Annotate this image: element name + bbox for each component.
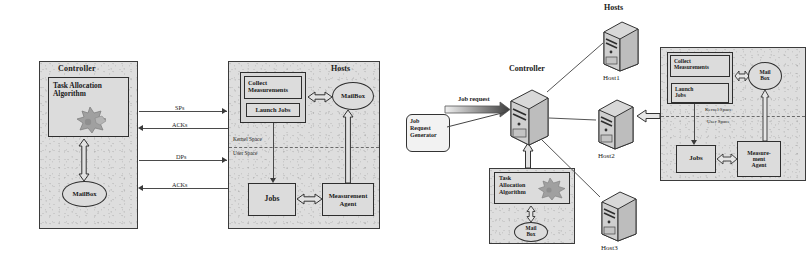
diagram-canvas: Controller Task Allocation Algorithm Mai… — [0, 0, 809, 272]
job-request-arrow — [0, 0, 809, 272]
